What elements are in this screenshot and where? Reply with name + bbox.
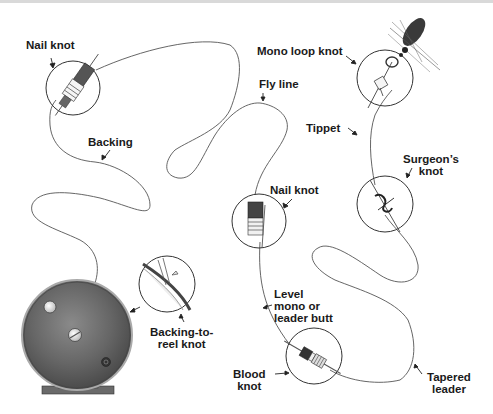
mono-loop-knot-circle bbox=[357, 50, 413, 106]
label-fly-line: Fly line bbox=[259, 78, 299, 90]
label-tippet: Tippet bbox=[306, 122, 340, 134]
label-backing-to-reel-line1: Backing-to- bbox=[150, 326, 213, 338]
label-blood-knot: Blood knot bbox=[233, 368, 266, 392]
label-tapered-leader-line2: leader bbox=[427, 383, 471, 395]
label-blood-knot-line2: knot bbox=[233, 380, 266, 392]
label-tapered-leader: Tapered leader bbox=[427, 371, 471, 395]
label-backing: Backing bbox=[88, 136, 133, 148]
fly-line-diagram bbox=[0, 0, 493, 414]
backing-to-reel-knot-icon bbox=[143, 258, 190, 310]
mono-loop-knot-icon bbox=[368, 57, 398, 108]
label-level-mono-line2: mono or bbox=[274, 300, 333, 312]
label-level-mono: Level mono or leader butt bbox=[274, 288, 333, 324]
label-surgeons-knot: Surgeon’s knot bbox=[403, 153, 459, 177]
label-tapered-leader-line1: Tapered bbox=[427, 371, 471, 383]
label-surgeons-knot-line2: knot bbox=[403, 165, 459, 177]
nail-knot-top-icon bbox=[50, 50, 104, 119]
label-blood-knot-line1: Blood bbox=[233, 368, 266, 380]
label-mono-loop-knot: Mono loop knot bbox=[257, 45, 343, 57]
backing-line bbox=[32, 100, 150, 283]
surgeons-knot-icon bbox=[370, 180, 400, 232]
label-nail-knot-top: Nail knot bbox=[26, 39, 75, 51]
label-backing-to-reel-knot: Backing-to- reel knot bbox=[150, 326, 213, 350]
label-level-mono-line1: Level bbox=[274, 288, 333, 300]
fly-icon bbox=[388, 14, 440, 72]
label-surgeons-knot-line1: Surgeon’s bbox=[403, 153, 459, 165]
label-level-mono-line3: leader butt bbox=[274, 312, 333, 324]
label-nail-knot-mid: Nail knot bbox=[270, 184, 319, 196]
nail-knot-mid-icon bbox=[248, 202, 265, 248]
reel-icon bbox=[22, 280, 132, 394]
tippet-line bbox=[370, 90, 392, 185]
label-backing-to-reel-line2: reel knot bbox=[150, 338, 213, 350]
